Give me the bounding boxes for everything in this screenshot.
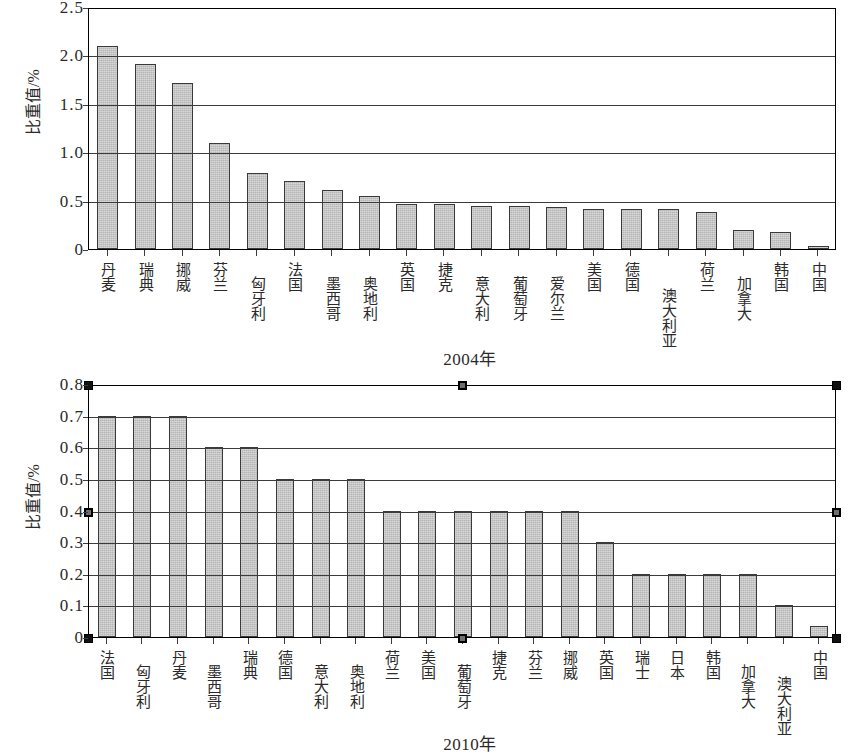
- y-tick-mark: [83, 480, 88, 481]
- handle-top-center[interactable]: [458, 381, 467, 390]
- x-category-label: 芬兰: [211, 262, 227, 292]
- x-category-label: 中国: [809, 262, 825, 292]
- y-tick-mark: [83, 543, 88, 544]
- x-category-label: 挪威: [174, 262, 190, 292]
- x-category-label: 瑞典: [136, 262, 152, 292]
- y-tick-mark: [83, 575, 88, 576]
- chart-2010-container[interactable]: 比重值/% 0.80.70.60.50.40.30.20.10 法国匈牙利丹麦墨…: [0, 375, 855, 754]
- y-tick-mark: [83, 56, 88, 57]
- y-tick-mark: [83, 202, 88, 203]
- x-category-label: 捷克: [435, 262, 451, 292]
- y-tick-mark: [83, 417, 88, 418]
- y-tick-mark: [83, 8, 88, 9]
- y-tick-mark: [83, 105, 88, 106]
- x-category-label: 奥地利: [361, 276, 377, 321]
- x-category-label: 德国: [622, 262, 638, 292]
- y-tick-mark: [83, 606, 88, 607]
- handle-top-right[interactable]: [832, 381, 841, 390]
- x-category-label: 爱尔兰: [548, 276, 564, 321]
- x-category-label: 丹麦: [99, 262, 115, 292]
- chart-2004-container: 比重值/% 2.52.01.51.00.50 丹麦瑞典挪威芬兰匈牙利法国墨西哥奥…: [0, 0, 855, 375]
- y-tick-mark: [83, 448, 88, 449]
- selection-handles-2010[interactable]: [0, 375, 855, 754]
- x-category-label: 法国: [286, 262, 302, 292]
- y-tick-mark: [83, 385, 88, 386]
- x-axis-category-labels-2004: 丹麦瑞典挪威芬兰匈牙利法国墨西哥奥地利英国捷克意大利葡萄牙爱尔兰美国德国澳大利亚…: [0, 0, 855, 375]
- x-category-label: 葡萄牙: [510, 276, 526, 321]
- x-category-label: 加拿大: [735, 276, 751, 321]
- handle-bottom-center[interactable]: [458, 634, 467, 643]
- x-category-label: 墨西哥: [323, 276, 339, 321]
- handle-bottom-right[interactable]: [832, 634, 841, 643]
- x-category-label: 韩国: [772, 262, 788, 292]
- handle-middle-right[interactable]: [832, 508, 841, 517]
- y-tick-mark: [83, 250, 88, 251]
- x-category-label: 匈牙利: [248, 276, 264, 321]
- x-category-label: 意大利: [473, 276, 489, 321]
- x-category-label: 美国: [585, 262, 601, 292]
- chart-caption-2004: 2004年: [390, 345, 550, 370]
- x-category-label: 荷兰: [697, 262, 713, 292]
- x-category-label: 澳大利亚: [660, 288, 676, 348]
- y-tick-mark: [83, 512, 88, 513]
- y-tick-mark: [83, 638, 88, 639]
- x-category-label: 英国: [398, 262, 414, 292]
- y-tick-mark: [83, 153, 88, 154]
- chart-caption-2010: 2010年: [390, 730, 550, 754]
